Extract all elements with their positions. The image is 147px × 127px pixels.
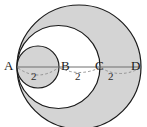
point-label-a: A: [4, 59, 13, 72]
measure-label-ab: 2: [31, 71, 37, 82]
geometry-figure: A B C D 2 2 2: [0, 0, 147, 127]
measure-label-cd: 2: [108, 71, 114, 82]
geometry-canvas: [0, 0, 147, 127]
point-label-c: C: [95, 59, 104, 72]
point-label-b: B: [61, 59, 70, 72]
measure-label-bc: 2: [75, 71, 81, 82]
point-label-d: D: [131, 59, 140, 72]
